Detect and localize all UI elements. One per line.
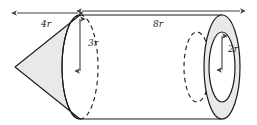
cone-body (15, 15, 80, 119)
solid-body (15, 15, 240, 119)
geometry-figure: 4r 8r 3r 2r (0, 0, 257, 125)
dimension-label-2r: 2r (227, 44, 239, 54)
dimension-label-4r: 4r (40, 19, 52, 29)
dimension-label-8r: 8r (153, 19, 164, 29)
dimension-label-3r: 3r (88, 38, 99, 48)
